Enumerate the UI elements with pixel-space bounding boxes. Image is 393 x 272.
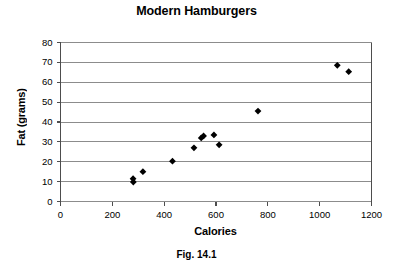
scatter-plot-svg xyxy=(0,24,393,224)
x-tick-label: 200 xyxy=(97,209,127,220)
x-tick-label: 1200 xyxy=(357,209,387,220)
data-point xyxy=(255,108,262,115)
y-tick-label: 50 xyxy=(31,96,53,107)
x-axis-label: Calories xyxy=(60,225,371,237)
x-tick-label: 400 xyxy=(149,209,179,220)
y-tick-label: 0 xyxy=(31,196,53,207)
x-tick-label: 1000 xyxy=(305,209,335,220)
data-point xyxy=(216,141,223,148)
data-point xyxy=(334,62,341,69)
y-tick-label: 10 xyxy=(31,176,53,187)
y-tick-label: 40 xyxy=(31,116,53,127)
data-point xyxy=(191,144,198,151)
chart-title: Modern Hamburgers xyxy=(0,4,393,18)
data-point xyxy=(345,68,352,75)
x-axis-ticks xyxy=(61,202,372,206)
figure-caption: Fig. 14.1 xyxy=(0,249,393,260)
x-tick-label: 600 xyxy=(201,209,231,220)
figure-container: Modern Hamburgers Fat (grams) 0102030405… xyxy=(0,0,393,272)
plot-area: 01020304050607080020040060080010001200 xyxy=(0,24,393,224)
data-point xyxy=(211,132,218,139)
x-tick-label: 800 xyxy=(253,209,283,220)
x-tick-label: 0 xyxy=(46,209,76,220)
y-tick-label: 60 xyxy=(31,76,53,87)
y-tick-label: 70 xyxy=(31,56,53,67)
y-tick-label: 20 xyxy=(31,156,53,167)
data-points xyxy=(130,62,352,185)
y-tick-label: 80 xyxy=(31,37,53,48)
y-tick-label: 30 xyxy=(31,136,53,147)
data-point xyxy=(169,158,176,165)
data-point xyxy=(140,168,147,175)
gridlines xyxy=(61,43,372,182)
